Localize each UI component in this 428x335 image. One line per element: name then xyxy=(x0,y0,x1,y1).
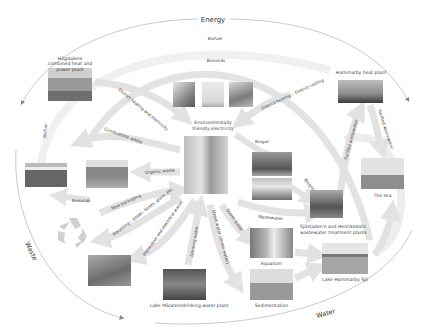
flow-label-biogas-1: Biogas xyxy=(255,139,269,144)
arrow-wastewater xyxy=(238,202,315,213)
caption-hammarby-heat-plant: Hammarby heat plant xyxy=(335,70,387,75)
lake-malaren-photo xyxy=(163,269,206,300)
flow-label-biofuel-top: Biofuel xyxy=(208,36,222,41)
caption-lake-hammarby: Lake Hammarby Sjö xyxy=(322,277,368,282)
field-photo xyxy=(25,163,67,187)
caption-equalizer: Equalizer xyxy=(250,261,293,266)
caption-the-sea: The sea xyxy=(361,193,404,198)
hogdalen-photo xyxy=(48,68,92,101)
flow-label-biosolids-left: Biosolids xyxy=(72,198,91,203)
caption-sjostaden-1: Sjöstaden's and Henriksdal's xyxy=(300,224,355,229)
caption-env-electricity-2: friendly electricity xyxy=(188,126,238,131)
caption-sedimentation: Sedimentation xyxy=(250,303,293,308)
caption-hogdalen: Högdalens combined heat and power plant xyxy=(46,56,94,72)
flow-label-biosolids-top: Biosolids xyxy=(207,58,226,63)
wind-turbine-photo xyxy=(202,82,224,107)
hydro-photo xyxy=(229,82,253,107)
equalizer-photo xyxy=(250,228,293,258)
building-photo xyxy=(184,136,228,194)
sedimentation-photo xyxy=(250,269,293,300)
cycle-label-water: Water xyxy=(315,307,336,320)
container-photo xyxy=(88,255,131,286)
wastewater-plant-photo xyxy=(310,190,343,218)
solar-panel-photo xyxy=(173,82,195,107)
lake-hammarby-photo xyxy=(322,243,368,274)
caption-env-electricity-1: Environmentally xyxy=(188,120,238,125)
recycle-icon xyxy=(58,218,87,248)
cycle-label-waste: Waste xyxy=(23,240,39,261)
caption-lake-malaren: Lake Mälaren/drinking water plant xyxy=(150,303,220,308)
hammarby-heat-plant-photo xyxy=(338,80,383,103)
arrow-equalizer-to-lake xyxy=(295,252,318,255)
cycle-label-energy: Energy xyxy=(201,16,226,24)
compost-photo xyxy=(86,160,128,188)
caption-sjostaden-2: wastewater treatment plants xyxy=(300,230,355,235)
van-photo xyxy=(252,178,292,200)
bus-photo xyxy=(252,152,292,176)
sea-photo xyxy=(361,158,404,189)
arrow-sedimentation-to-lake xyxy=(295,268,318,278)
flow-label-wastewater: Wastewater xyxy=(258,214,283,221)
